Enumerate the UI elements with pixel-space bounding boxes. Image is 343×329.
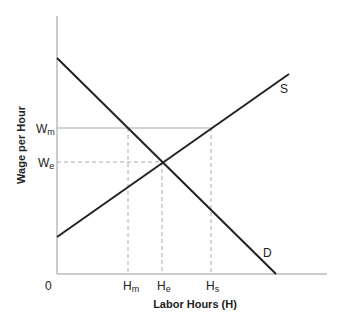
hs-label: Hs <box>206 279 220 294</box>
y-axis-title: Wage per Hour <box>15 105 27 184</box>
hm-label: Hm <box>123 279 139 294</box>
x-axis-title: Labor Hours (H) <box>153 298 237 310</box>
he-label: He <box>157 279 171 294</box>
demand-label: D <box>263 246 272 260</box>
supply-label: S <box>280 82 288 96</box>
wm-label: Wm <box>36 122 55 137</box>
supply-curve <box>57 74 289 237</box>
demand-curve <box>57 58 276 274</box>
origin-label: 0 <box>45 279 52 293</box>
we-label: We <box>38 156 54 171</box>
labor-market-chart: S D Wm We 0 Hm He Hs Labor Hours (H) Wag… <box>0 0 343 329</box>
